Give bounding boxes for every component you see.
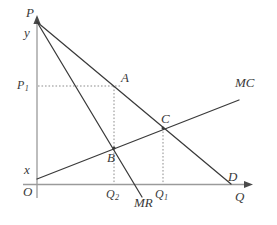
point-a-label: A: [121, 71, 129, 84]
demand-curve-label: D: [228, 170, 237, 183]
point-b-label: B: [107, 151, 115, 164]
marginal-cost-curve: [37, 100, 239, 179]
quantity-q2-base: Q: [106, 187, 115, 201]
quantity-q2-label: Q2: [106, 188, 119, 202]
origin-label: O: [23, 185, 32, 198]
horizontal-axis-arrow: [244, 181, 253, 188]
demand-intercept-label: y: [24, 26, 30, 39]
curves-group: [37, 22, 239, 197]
point-c-marker: [162, 127, 165, 130]
marginal-revenue-curve: [37, 22, 142, 197]
mc-intercept-label: x: [24, 163, 30, 176]
quantity-q1-subscript: 1: [164, 193, 168, 202]
horizontal-axis-label: Q: [235, 190, 244, 203]
quantity-q2-subscript: 2: [115, 193, 119, 202]
point-c-label: C: [161, 112, 170, 125]
guide-lines-group: [38, 86, 163, 184]
marginal-cost-curve-label: MC: [235, 76, 255, 89]
quantity-q1-base: Q: [155, 187, 164, 201]
economics-diagram: P Q O y x P1 Q2 Q1 A B C D MR MC: [0, 0, 277, 225]
price-p1-label: P1: [17, 79, 29, 93]
marginal-revenue-curve-label: MR: [134, 196, 153, 209]
quantity-q1-label: Q1: [155, 188, 168, 202]
vertical-axis-label: P: [26, 6, 34, 19]
demand-curve: [37, 22, 231, 184]
price-p1-subscript: 1: [24, 84, 28, 93]
